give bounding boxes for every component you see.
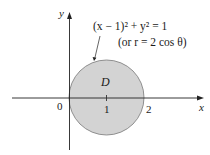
y-axis-arrow-icon [67, 12, 72, 19]
region-label: D [101, 76, 110, 88]
y-axis-label: y [59, 8, 64, 19]
tick-label-2: 2 [146, 104, 152, 115]
tick-label-1: 1 [104, 104, 110, 115]
polar-region-diagram: y x 0 1 2 D (x − 1)² + y² = 1 (or r = 2 … [0, 0, 210, 155]
leader-line [95, 36, 101, 60]
equation-cartesian: (x − 1)² + y² = 1 [93, 21, 167, 33]
x-axis-arrow-icon [197, 96, 204, 101]
leader-arrow-icon [93, 57, 97, 61]
equation-polar: (or r = 2 cos θ) [118, 37, 187, 49]
x-axis-label: x [199, 102, 204, 113]
origin-label: 0 [57, 101, 63, 112]
